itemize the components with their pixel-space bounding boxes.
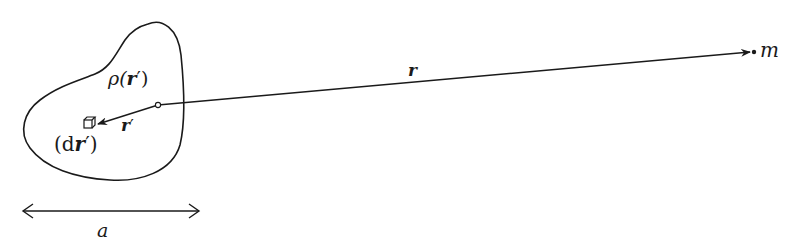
volume-element-label-post: ) <box>90 132 98 156</box>
r-prime-label: r′ <box>121 117 134 134</box>
density-label-vec: r <box>127 67 137 89</box>
r-label-vec: r <box>408 60 417 80</box>
r-prime-label-vec: r <box>121 115 130 135</box>
volume-element-label: (dr′) <box>54 134 98 154</box>
r-label: r <box>408 62 417 79</box>
volume-element-label-vec: r <box>75 132 86 156</box>
size-label: a <box>97 221 108 240</box>
cube-icon <box>84 117 95 128</box>
origin-point <box>155 102 160 107</box>
vector-r-arrow <box>158 52 750 105</box>
mass-label: m <box>760 40 779 60</box>
body-outline <box>24 22 184 180</box>
diagram-svg <box>0 0 799 250</box>
diagram-canvas: ρ(r′) (dr′) r′ r m a <box>0 0 799 250</box>
mass-point <box>752 50 756 54</box>
density-label-post: ) <box>141 67 148 89</box>
r-prime-label-prime: ′ <box>130 115 134 135</box>
volume-element-label-pre: (d <box>54 132 75 156</box>
density-label-pre: ρ( <box>108 67 127 89</box>
density-label: ρ(r′) <box>108 69 148 88</box>
size-arrow <box>23 204 199 218</box>
